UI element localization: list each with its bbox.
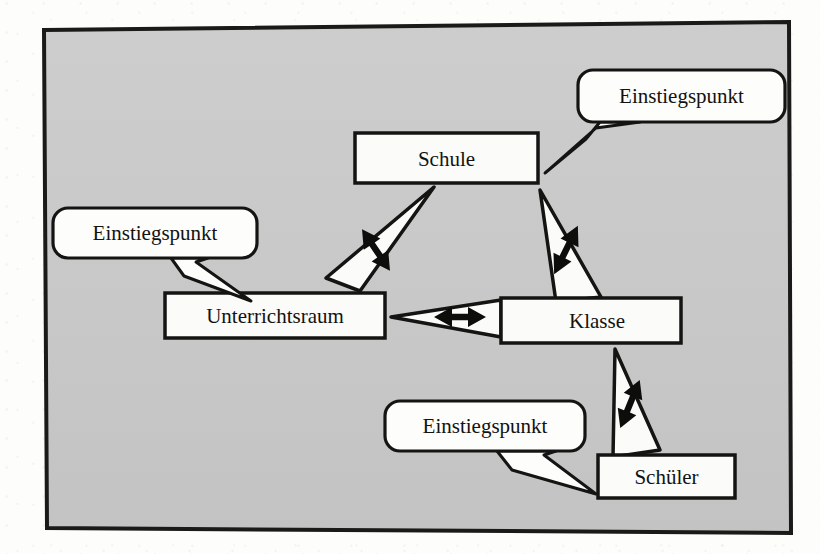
callout-label: Einstiegspunkt <box>423 414 548 438</box>
callout-label: Einstiegspunkt <box>93 221 218 245</box>
callout-label: Einstiegspunkt <box>619 84 744 108</box>
node-schueler[interactable]: Schüler <box>598 455 735 498</box>
node-schueler-label: Schüler <box>634 465 698 489</box>
node-klasse[interactable]: Klasse <box>501 298 681 343</box>
scanned-page: die faint verso textdurchscheinender Tex… <box>0 0 820 554</box>
node-unterrichtsraum-label: Unterrichtsraum <box>206 304 344 328</box>
node-schule-label: Schule <box>418 147 475 171</box>
diagram-canvas: Schule Unterrichtsraum Klasse Schüler Ei… <box>0 0 820 554</box>
node-unterrichtsraum[interactable]: Unterrichtsraum <box>165 293 385 338</box>
node-klasse-label: Klasse <box>569 309 625 333</box>
node-schule[interactable]: Schule <box>355 133 538 183</box>
